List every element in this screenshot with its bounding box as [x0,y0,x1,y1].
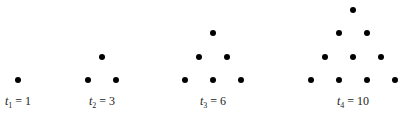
dot [336,77,342,83]
dot [99,54,105,60]
dot [350,7,356,13]
dot [350,54,356,60]
dot [322,54,328,60]
dot [392,77,398,83]
dot [210,30,216,36]
dot [364,77,370,83]
dot [336,30,342,36]
dot [182,77,188,83]
label-t2: t2 = 3 [89,94,115,110]
label-t1: t1 = 1 [5,94,31,110]
dot [238,77,244,83]
dot [85,77,91,83]
dot [378,54,384,60]
dot [210,77,216,83]
label-t4: t4 = 10 [337,94,369,110]
label-t3: t3 = 6 [200,94,226,110]
dot [196,54,202,60]
dot [113,77,119,83]
dot [364,30,370,36]
dot [15,77,21,83]
dot [308,77,314,83]
dot [224,54,230,60]
